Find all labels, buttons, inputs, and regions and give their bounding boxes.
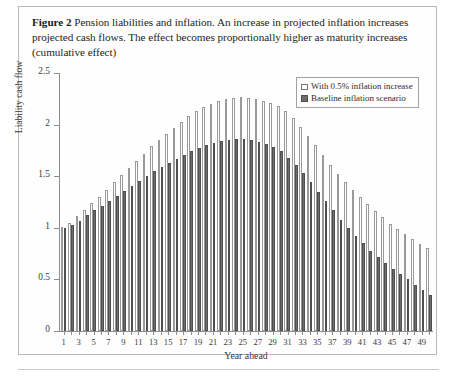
bar-with-inflation-increase [269,103,272,331]
legend-label-dark: Baseline inflation scenario [311,93,406,105]
bar-baseline [86,215,89,331]
y-tick: 0 [54,331,60,332]
x-tick [370,331,371,335]
x-tick-label: 27 [251,337,265,347]
bar-group [269,73,276,331]
bar-baseline [302,173,305,331]
bar-series-container [60,73,433,331]
x-tick [377,331,378,335]
bar-group [240,73,247,331]
bar-baseline [429,295,432,331]
bar-baseline [399,274,402,331]
bar-with-inflation-increase [337,174,340,331]
bar-baseline [183,155,186,331]
bar-baseline [213,143,216,331]
bar-with-inflation-increase [240,97,243,331]
x-tick-label: 49 [415,337,429,347]
bar-with-inflation-increase [61,227,64,331]
bar-group [292,73,299,331]
bar-baseline [235,139,238,331]
x-tick-label: 31 [281,337,295,347]
bar-group [150,73,157,331]
plot-area: 00.511.522.5 Liability cash flow 1357911… [19,7,438,356]
bar-baseline [310,182,313,331]
bar-with-inflation-increase [247,98,250,331]
bar-group [322,73,329,331]
bar-baseline [422,290,425,331]
bar-group [344,73,351,331]
bar-with-inflation-increase [284,111,287,331]
bar-with-inflation-increase [150,146,153,331]
x-tick [429,331,430,335]
bar-baseline [332,210,335,331]
bar-with-inflation-increase [322,155,325,331]
bar-baseline [138,181,141,331]
x-tick-label: 33 [295,337,309,347]
x-tick [258,331,259,335]
bar-with-inflation-increase [202,107,205,331]
bar-with-inflation-increase [374,211,377,331]
x-tick [288,331,289,335]
bar-group [195,73,202,331]
bar-with-inflation-increase [83,210,86,331]
x-tick-label: 17 [176,337,190,347]
y-tick-label: 2.5 [38,66,50,76]
bar-baseline [123,191,126,331]
x-tick [64,331,65,335]
x-tick-label: 1 [57,337,71,347]
bar-baseline [146,176,149,331]
bar-group [374,73,381,331]
bar-group [180,73,187,331]
x-tick [399,331,400,335]
bar-with-inflation-increase [419,244,422,331]
bar-group [202,73,209,331]
bar-group [128,73,135,331]
bar-with-inflation-increase [389,224,392,331]
x-tick [176,331,177,335]
x-tick [340,331,341,335]
bar-with-inflation-increase [307,136,310,331]
x-tick [235,331,236,335]
x-tick [407,331,408,335]
bar-with-inflation-increase [344,182,347,331]
bar-baseline [243,139,246,331]
chart-legend: With 0.5% inflation increase Baseline in… [296,77,419,108]
x-tick [414,331,415,335]
bar-baseline [220,141,223,331]
bar-baseline [131,186,134,332]
bar-group [105,73,112,331]
bar-baseline [93,210,96,331]
bar-with-inflation-increase [105,190,108,331]
bar-group [352,73,359,331]
bar-baseline [176,159,179,331]
bar-group [247,73,254,331]
x-tick-label: 29 [266,337,280,347]
y-axis-label: Liability cash flow [13,37,24,157]
bar-with-inflation-increase [113,182,116,331]
x-tick [295,331,296,335]
bar-group [61,73,68,331]
x-tick-label: 37 [325,337,339,347]
bar-with-inflation-increase [396,229,399,331]
bar-baseline [190,151,193,331]
x-tick [205,331,206,335]
bar-group [225,73,232,331]
bar-group [329,73,336,331]
bar-group [113,73,120,331]
bar-baseline [64,228,67,331]
x-tick [220,331,221,335]
bar-group [389,73,396,331]
bar-baseline [317,192,320,331]
bar-with-inflation-increase [359,197,362,331]
x-tick [422,331,423,335]
bar-with-inflation-increase [232,98,235,331]
x-tick [325,331,326,335]
y-tick-label: 0.5 [38,272,50,282]
x-tick-label: 15 [161,337,175,347]
bar-baseline [280,151,283,331]
bar-with-inflation-increase [90,203,93,331]
bar-group [404,73,411,331]
x-tick [310,331,311,335]
bar-group [120,73,127,331]
bar-group [143,73,150,331]
